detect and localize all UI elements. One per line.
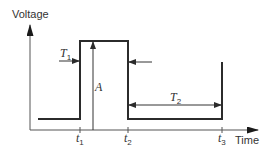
voltage-axis-label: Voltage xyxy=(12,8,49,20)
t2-mark-label: t2 xyxy=(124,131,132,147)
diagram-svg: Voltage Time A T1 T2 t1 t2 t3 xyxy=(0,0,274,149)
amplitude-label: A xyxy=(94,80,103,94)
time-axis-label: Time xyxy=(235,134,259,146)
t1-mark-label: t1 xyxy=(76,131,84,147)
pulse-diagram: Voltage Time A T1 T2 t1 t2 t3 xyxy=(0,0,274,149)
t3-mark-label: t3 xyxy=(218,131,226,147)
t2-duration-label: T2 xyxy=(170,90,182,106)
t1-duration-label: T1 xyxy=(60,46,72,62)
